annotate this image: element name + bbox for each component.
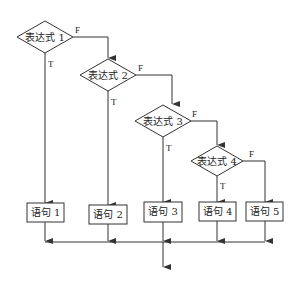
statement-4-label: 语句 4 xyxy=(203,205,233,217)
decision-3-label: 表达式 3 xyxy=(143,115,183,127)
statement-3-label: 语句 3 xyxy=(148,205,178,217)
statement-5-label: 语句 5 xyxy=(250,205,280,217)
flowchart: 表达式 1 F T 表达式 2 F T 表达式 3 F T 表达式 4 F T … xyxy=(0,0,298,281)
statement-2-label: 语句 2 xyxy=(93,208,123,220)
decision-2-label: 表达式 2 xyxy=(88,69,128,81)
statement-2: 语句 2 xyxy=(89,205,127,224)
statement-1: 语句 1 xyxy=(27,203,64,222)
decision-1-true-label: T xyxy=(48,59,54,69)
decision-3-true-label: T xyxy=(166,143,172,153)
decision-4-label: 表达式 4 xyxy=(197,155,237,167)
decision-2-false-label: F xyxy=(138,63,143,73)
statement-5: 语句 5 xyxy=(246,202,283,221)
decision-2: 表达式 2 xyxy=(80,59,136,91)
decision-1: 表达式 1 xyxy=(17,21,73,53)
decision-4-false-label: F xyxy=(249,149,254,159)
decision-1-label: 表达式 1 xyxy=(25,31,65,43)
decision-2-true-label: T xyxy=(111,97,117,107)
edge-d3-false xyxy=(191,121,217,145)
decision-1-false-label: F xyxy=(75,25,80,35)
decision-3-false-label: F xyxy=(192,109,197,119)
edge-d1-false xyxy=(73,37,108,58)
decision-4-true-label: T xyxy=(220,181,226,191)
statement-3: 语句 3 xyxy=(144,202,182,222)
statement-1-label: 语句 1 xyxy=(31,206,61,218)
decision-3: 表达式 3 xyxy=(135,105,191,137)
statement-4: 语句 4 xyxy=(199,202,236,221)
edge-d4-false xyxy=(243,161,265,202)
edge-d2-false xyxy=(136,75,172,104)
decision-4: 表达式 4 xyxy=(191,146,243,176)
